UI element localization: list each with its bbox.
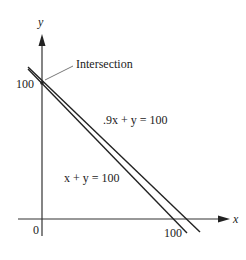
intersection-label: Intersection <box>76 58 133 70</box>
x-axis-arrow-icon <box>218 216 230 223</box>
x-tick-100: 100 <box>164 227 182 239</box>
x-axis-label: x <box>233 213 238 225</box>
line-x-plus-y <box>28 69 187 233</box>
plot-svg <box>0 0 246 260</box>
y-axis-arrow-icon <box>39 34 46 46</box>
y-axis-label: y <box>38 16 43 28</box>
origin-label: 0 <box>33 224 39 236</box>
line-0.9x-plus-y <box>28 67 200 232</box>
y-tick-100: 100 <box>16 78 34 90</box>
intersection-point <box>40 81 44 85</box>
intersection-leader <box>45 66 73 80</box>
line-label-x: x + y = 100 <box>64 172 120 184</box>
diagram-canvas: y x 0 100 100 Intersection .9x + y = 100… <box>0 0 246 260</box>
line-label-0.9x: .9x + y = 100 <box>103 114 168 126</box>
